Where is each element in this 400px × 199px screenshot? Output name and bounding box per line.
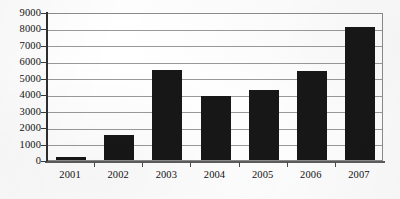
x-axis-label-2003: 2003 [143, 170, 189, 181]
y-axis-label-3000: 3000 [0, 107, 41, 118]
y-axis-label-9000: 9000 [0, 8, 41, 19]
bar-2007 [345, 27, 375, 160]
bar-chart-figure: 0100020003000400050006000700080009000200… [0, 0, 400, 199]
bar-2004 [201, 96, 231, 160]
bar-2006 [297, 71, 327, 160]
y-axis-label-7000: 7000 [0, 41, 41, 52]
y-tick-4000 [41, 95, 47, 96]
y-tick-1000 [41, 145, 47, 146]
bar-2002 [104, 135, 134, 160]
y-tick-0 [41, 161, 47, 162]
y-tick-9000 [41, 13, 47, 14]
x-axis-label-2004: 2004 [192, 170, 238, 181]
y-tick-2000 [41, 128, 47, 129]
y-tick-5000 [41, 79, 47, 80]
bar-2001 [56, 157, 86, 160]
y-axis-label-4000: 4000 [0, 90, 41, 101]
y-tick-7000 [41, 46, 47, 47]
x-tick-6 [335, 162, 336, 167]
bars-layer [47, 14, 382, 160]
x-tick-4 [239, 162, 240, 167]
y-axis-label-0: 0 [0, 156, 41, 167]
x-tick-1 [94, 162, 95, 167]
x-tick-5 [287, 162, 288, 167]
x-axis-label-2005: 2005 [240, 170, 286, 181]
y-tick-8000 [41, 29, 47, 30]
bar-2005 [249, 90, 279, 160]
y-axis-label-8000: 8000 [0, 24, 41, 35]
x-axis-label-2007: 2007 [336, 170, 382, 181]
y-axis-label-5000: 5000 [0, 74, 41, 85]
y-axis-label-2000: 2000 [0, 123, 41, 134]
bar-2003 [152, 70, 182, 160]
y-tick-3000 [41, 112, 47, 113]
x-tick-2 [142, 162, 143, 167]
y-axis-line [46, 12, 48, 163]
x-axis-label-2002: 2002 [95, 170, 141, 181]
x-axis-line [45, 161, 385, 163]
y-tick-6000 [41, 62, 47, 63]
x-axis-label-2001: 2001 [47, 170, 93, 181]
x-tick-3 [190, 162, 191, 167]
x-axis-label-2006: 2006 [288, 170, 334, 181]
y-axis-label-1000: 1000 [0, 140, 41, 151]
y-axis-label-6000: 6000 [0, 57, 41, 68]
plot-area [46, 13, 383, 161]
